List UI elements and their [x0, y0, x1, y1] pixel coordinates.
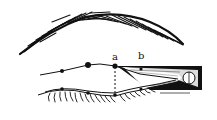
label-a: a	[112, 52, 118, 62]
lower-dot-2	[86, 91, 90, 95]
lower-dot-3	[113, 93, 117, 97]
point-a	[112, 63, 117, 68]
eye-diagram	[0, 0, 217, 120]
point-b	[139, 67, 142, 70]
lower-dot-1	[60, 87, 64, 91]
upper-dot-2	[85, 62, 91, 68]
eyebrow	[20, 12, 183, 54]
lower-dot-4	[139, 87, 142, 90]
label-b: b	[138, 51, 144, 61]
upper-dot-1	[60, 69, 64, 73]
